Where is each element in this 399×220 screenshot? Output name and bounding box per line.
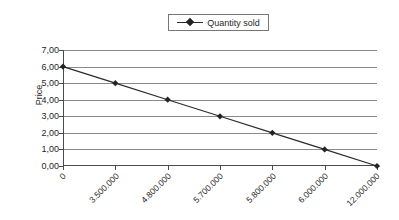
plot-area <box>63 50 377 166</box>
data-point-marker[interactable] <box>322 146 328 152</box>
data-point-marker[interactable] <box>112 80 118 86</box>
y-axis-tick-labels: 0,001,002,003,004,005,006,007,00 <box>27 50 59 166</box>
y-axis-tick-label: 3,00 <box>29 111 59 121</box>
data-point-marker[interactable] <box>165 97 171 103</box>
y-axis-tick-label: 4,00 <box>29 95 59 105</box>
x-axis-tick-label: 5.700.000 <box>191 171 225 205</box>
x-axis-tick-label: 6.000.000 <box>296 171 330 205</box>
x-axis-tick-label: 3.500.000 <box>87 171 121 205</box>
x-axis-tick-label: 5.800.000 <box>244 171 278 205</box>
y-axis-tick-label: 2,00 <box>29 128 59 138</box>
data-point-marker[interactable] <box>269 130 275 136</box>
y-axis-tick-label: 0,00 <box>29 161 59 171</box>
x-axis-tick-label: 12.000.000 <box>345 171 382 208</box>
legend-series-marker-icon <box>177 18 203 27</box>
data-point-marker[interactable] <box>60 63 66 69</box>
y-axis-tick-label: 6,00 <box>29 62 59 72</box>
legend-item-label: Quantity sold <box>207 18 260 28</box>
x-axis-tick-label: 4.800.000 <box>139 171 173 205</box>
x-axis-tick-labels: 03.500.0004.800.0005.700.0005.800.0006.0… <box>63 166 377 220</box>
y-axis-tick-label: 7,00 <box>29 45 59 55</box>
data-point-marker[interactable] <box>217 113 223 119</box>
chart-legend[interactable]: Quantity sold <box>168 14 269 31</box>
chart-container: Quantity sold Price 0,001,002,003,004,00… <box>0 0 399 220</box>
y-axis-tick-label: 1,00 <box>29 144 59 154</box>
x-axis-tick-label: 0 <box>58 171 68 181</box>
y-axis-tick-label: 5,00 <box>29 78 59 88</box>
series-quantity-sold <box>63 50 377 166</box>
